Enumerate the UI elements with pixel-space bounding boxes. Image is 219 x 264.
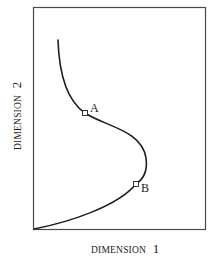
- point-b: B: [134, 181, 150, 195]
- y-axis-label-number: 2: [9, 82, 24, 89]
- x-axis-label-number: 1: [153, 241, 160, 256]
- phase-diagram: A B DIMENSION 1 DIMENSION 2: [0, 0, 219, 264]
- trajectory-curve: [34, 40, 146, 229]
- point-b-marker: [134, 182, 139, 187]
- y-axis-label: DIMENSION 2: [9, 82, 24, 150]
- point-a-marker: [83, 111, 88, 116]
- y-axis-label-text: DIMENSION: [13, 95, 23, 150]
- point-a: A: [83, 101, 100, 116]
- point-a-label: A: [90, 101, 99, 115]
- point-b-label: B: [141, 181, 149, 195]
- plot-frame: [34, 8, 206, 230]
- x-axis-label: DIMENSION 1: [91, 241, 159, 256]
- x-axis-label-text: DIMENSION: [91, 245, 146, 255]
